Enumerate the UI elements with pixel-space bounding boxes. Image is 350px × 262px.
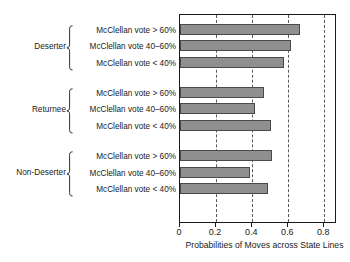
category-group: ReturneeMcClellan vote > 60%McClellan vo…: [0, 86, 179, 136]
bar: [180, 120, 271, 131]
bars-container: [180, 15, 335, 222]
category-label-list: McClellan vote > 60%McClellan vote 40–60…: [72, 23, 176, 73]
x-axis-title: Probabilities of Moves across State Line…: [179, 240, 350, 250]
category-label: McClellan vote > 60%: [72, 23, 176, 40]
bar: [180, 24, 300, 35]
x-tick-label: 0.2: [209, 227, 222, 237]
category-label-list: McClellan vote > 60%McClellan vote 40–60…: [72, 149, 176, 199]
bar: [180, 150, 272, 161]
category-label: McClellan vote < 40%: [72, 182, 176, 199]
bar: [180, 87, 264, 98]
category-label-list: McClellan vote > 60%McClellan vote 40–60…: [72, 86, 176, 136]
category-label: McClellan vote > 60%: [72, 86, 176, 103]
bar: [180, 103, 255, 114]
x-axis-tick-labels: 00.20.40.60.8: [179, 227, 336, 239]
bar: [180, 167, 250, 178]
x-tick-label: 0: [176, 227, 181, 237]
bar: [180, 57, 284, 68]
category-label: McClellan vote 40–60%: [72, 39, 176, 56]
category-label: McClellan vote < 40%: [72, 56, 176, 73]
x-tick-label: 0.8: [317, 227, 330, 237]
category-label: McClellan vote 40–60%: [72, 166, 176, 183]
category-label: McClellan vote > 60%: [72, 149, 176, 166]
category-group: Non-DeserterMcClellan vote > 60%McClella…: [0, 149, 179, 199]
category-label: McClellan vote < 40%: [72, 119, 176, 136]
bar-chart-figure: DeserterMcClellan vote > 60%McClellan vo…: [0, 0, 350, 262]
category-group: DeserterMcClellan vote > 60%McClellan vo…: [0, 23, 179, 73]
bar: [180, 40, 291, 51]
group-label-returnee: Returnee: [32, 105, 66, 114]
group-label-non-deserter: Non-Deserter: [16, 168, 66, 177]
bar: [180, 183, 268, 194]
group-label-deserter: Deserter: [34, 42, 66, 51]
x-tick-label: 0.4: [245, 227, 258, 237]
x-tick-label: 0.6: [281, 227, 294, 237]
plot-area: [179, 14, 336, 223]
category-label: McClellan vote 40–60%: [72, 102, 176, 119]
